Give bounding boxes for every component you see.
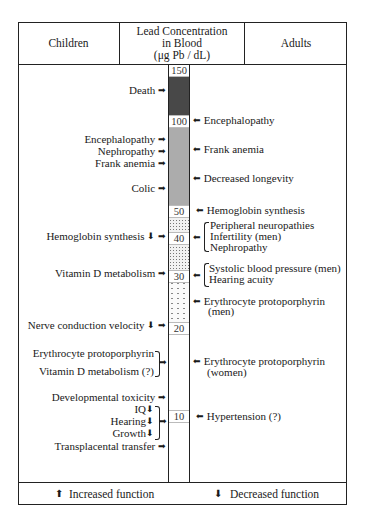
arrow-right-icon: ➡ xyxy=(158,320,166,331)
tick-150: 150 xyxy=(169,65,189,77)
arrow-right-icon: ➡ xyxy=(158,85,166,96)
legend-increased: ⬆ Increased function xyxy=(55,482,154,505)
adult-effect-men-note: (men) xyxy=(208,306,234,317)
tick-40: 40 xyxy=(169,232,189,245)
child-effect-nephropathy: Nephropathy ➡ xyxy=(98,146,166,157)
child-effect-hearing: Hearing⬇ xyxy=(111,416,154,427)
child-effect-encephalopathy: Encephalopathy ➡ xyxy=(84,134,166,145)
tick-50: 50 xyxy=(169,205,189,218)
arrow-left-icon: ⬅ xyxy=(193,356,201,367)
child-effect-erythrocyte-protoporphyrin: Erythrocyte protoporphyrin xyxy=(33,348,154,359)
bar-segment-100-50 xyxy=(169,126,189,205)
adult-effect-frank-anemia: ⬅ Frank anemia xyxy=(193,144,264,155)
arrow-left-icon: ⬅ xyxy=(193,173,201,184)
child-effect-colic: Colic ➡ xyxy=(131,183,166,194)
child-bracket-arrow: ➡ xyxy=(159,357,167,368)
arrow-up-icon: ⬆ xyxy=(55,488,63,499)
legend-decreased: ⬇ Decreased function xyxy=(214,482,319,505)
adult-effect-women-note: (women) xyxy=(207,367,247,378)
arrow-down-icon: ⬇ xyxy=(147,231,155,242)
bracket-icon xyxy=(204,222,209,252)
child-effect-vitamin-d-metabolism-q: Vitamin D metabolism (?) xyxy=(39,366,154,377)
adult-effect-hemoglobin-synthesis: ⬅ Hemoglobin synthesis xyxy=(196,205,305,216)
arrow-right-icon: ➡ xyxy=(158,158,166,169)
arrow-right-icon: ➡ xyxy=(159,357,167,368)
bar-segment-50-40 xyxy=(169,216,189,232)
adult-effect-decreased-longevity: ⬅ Decreased longevity xyxy=(193,173,294,184)
arrow-left-icon: ⬅ xyxy=(196,411,204,422)
adult-bracket-arrow: ⬅ xyxy=(193,270,201,281)
header-lead-concentration: Lead Concentration in Blood (μg Pb / dL) xyxy=(120,22,244,64)
arrow-down-icon: ⬇ xyxy=(146,416,154,427)
child-bracket-arrow: ➡ xyxy=(159,416,167,427)
child-effect-vitamin-d-metabolism: Vitamin D metabolism ➡ xyxy=(55,268,166,279)
adult-effect-hearing-acuity: Hearing acuity xyxy=(209,274,274,285)
tick-20: 20 xyxy=(169,322,189,335)
child-effect-hemoglobin-synthesis: Hemoglobin synthesis ⬇ ➡ xyxy=(46,231,166,242)
arrow-right-icon: ➡ xyxy=(158,392,166,403)
adult-effect-hypertension: ⬅ Hypertension (?) xyxy=(196,411,281,422)
arrow-left-icon: ⬅ xyxy=(193,232,201,243)
header-children: Children xyxy=(18,22,119,64)
header-center-line3: (μg Pb / dL) xyxy=(154,49,210,61)
adult-effect-encephalopathy: ⬅ Encephalopathy xyxy=(193,115,275,126)
arrow-down-icon: ⬇ xyxy=(146,404,154,415)
arrow-right-icon: ➡ xyxy=(158,183,166,194)
adult-bracket-arrow: ⬅ xyxy=(193,232,201,243)
adult-effect-nephropathy: Nephropathy xyxy=(210,242,267,253)
arrow-down-icon: ⬇ xyxy=(147,320,155,331)
arrow-right-icon: ➡ xyxy=(158,441,166,452)
arrow-left-icon: ⬅ xyxy=(193,296,201,307)
arrow-left-icon: ⬅ xyxy=(196,205,204,216)
child-effect-developmental-toxicity: Developmental toxicity ➡ xyxy=(52,392,166,403)
tick-30: 30 xyxy=(169,270,189,283)
arrow-right-icon: ➡ xyxy=(159,416,167,427)
child-effect-death: Death ➡ xyxy=(129,85,166,96)
tick-100: 100 xyxy=(169,115,189,128)
arrow-right-icon: ➡ xyxy=(158,146,166,157)
arrow-right-icon: ➡ xyxy=(158,231,166,242)
arrow-right-icon: ➡ xyxy=(158,268,166,279)
arrow-left-icon: ⬅ xyxy=(193,270,201,281)
arrow-left-icon: ⬅ xyxy=(193,144,201,155)
bar-segment-40-30 xyxy=(169,243,189,270)
bar-segment-150-100 xyxy=(169,76,189,115)
header-center-line2: in Blood xyxy=(162,37,202,49)
child-effect-transplacental-transfer: Transplacental transfer ➡ xyxy=(55,441,166,452)
arrow-down-icon: ⬇ xyxy=(214,488,222,499)
legend-decreased-label: Decreased function xyxy=(230,488,319,500)
child-effect-frank-anemia: Frank anemia ➡ xyxy=(95,158,166,169)
child-effect-nerve-conduction-velocity: Nerve conduction velocity ⬇ ➡ xyxy=(28,320,166,331)
tick-10: 10 xyxy=(169,410,189,423)
arrow-left-icon: ⬅ xyxy=(193,115,201,126)
arrow-right-icon: ➡ xyxy=(158,134,166,145)
child-effect-iq: IQ⬇ xyxy=(134,404,154,415)
child-effect-growth: Growth⬇ xyxy=(112,428,154,439)
bar-segment-30-20 xyxy=(169,281,189,322)
arrow-down-icon: ⬇ xyxy=(146,428,154,439)
header-center-line1: Lead Concentration xyxy=(136,25,227,37)
header-adults: Adults xyxy=(245,22,347,64)
legend-increased-label: Increased function xyxy=(69,488,154,500)
